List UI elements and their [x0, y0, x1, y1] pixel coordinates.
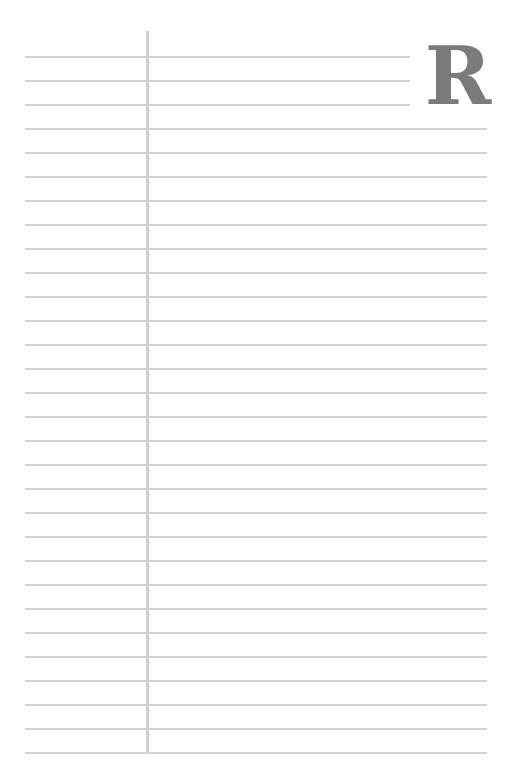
ruled-line	[25, 560, 487, 562]
ruled-line	[25, 704, 487, 706]
ruled-line	[25, 56, 410, 58]
ruled-line	[25, 320, 487, 322]
monogram-letter: R	[424, 34, 490, 118]
lined-paper: R	[0, 0, 511, 781]
ruled-line	[25, 344, 487, 346]
ruled-line	[25, 536, 487, 538]
ruled-line	[25, 680, 487, 682]
ruled-line	[25, 152, 487, 154]
ruled-line	[25, 464, 487, 466]
ruled-line	[25, 128, 487, 130]
margin-line	[146, 31, 149, 753]
ruled-line	[25, 176, 487, 178]
ruled-line	[25, 296, 487, 298]
ruled-line	[25, 632, 487, 634]
ruled-line	[25, 416, 487, 418]
ruled-line	[25, 200, 487, 202]
ruled-line	[25, 224, 487, 226]
ruled-line	[25, 392, 487, 394]
ruled-line	[25, 368, 487, 370]
ruled-line	[25, 512, 487, 514]
ruled-line	[25, 80, 410, 82]
ruled-line	[25, 104, 410, 106]
ruled-line	[25, 488, 487, 490]
ruled-line	[25, 656, 487, 658]
ruled-line	[25, 608, 487, 610]
ruled-line	[25, 440, 487, 442]
ruled-line	[25, 584, 487, 586]
ruled-line	[25, 752, 487, 754]
ruled-line	[25, 728, 487, 730]
ruled-line	[25, 272, 487, 274]
ruled-line	[25, 248, 487, 250]
